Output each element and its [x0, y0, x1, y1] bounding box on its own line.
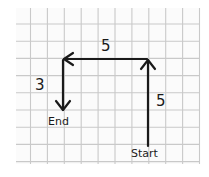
- move-left-label: 5: [101, 37, 111, 55]
- move-down-label: 3: [35, 76, 45, 94]
- grid-path-diagram: 5 5 3 End Start: [0, 0, 209, 177]
- start-label: Start: [131, 147, 159, 160]
- move-up-label: 5: [156, 92, 166, 110]
- end-label: End: [48, 115, 69, 128]
